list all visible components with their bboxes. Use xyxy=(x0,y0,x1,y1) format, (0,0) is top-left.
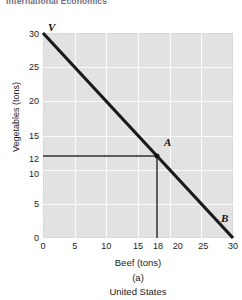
x-tick-0: 0 xyxy=(40,241,45,251)
x-tick-25: 25 xyxy=(198,241,208,251)
x-axis-label: Beef (tons) xyxy=(43,257,233,268)
x-tick-10: 10 xyxy=(101,241,111,251)
plot-area: V A B xyxy=(43,33,233,238)
point-label-v: V xyxy=(48,21,55,33)
y-tick-5: 5 xyxy=(18,199,39,209)
chart-page: International Economics V A B 0 5 10 12 xyxy=(0,0,242,300)
x-tick-15: 15 xyxy=(133,241,143,251)
x-tick-5: 5 xyxy=(72,241,77,251)
point-label-a: A xyxy=(164,136,171,148)
y-tick-15: 15 xyxy=(18,131,39,141)
y-tick-25: 25 xyxy=(18,62,39,72)
y-axis-label: Vegetables (tons) xyxy=(11,57,21,177)
panel-caption: United States xyxy=(43,286,233,297)
panel-letter: (a) xyxy=(43,272,233,283)
y-tick-12: 12 xyxy=(18,154,39,164)
x-tick-20: 20 xyxy=(173,241,183,251)
x-tick-30: 30 xyxy=(228,241,238,251)
page-header: International Economics xyxy=(6,0,107,6)
x-tick-18: 18 xyxy=(153,241,163,251)
point-a-marker xyxy=(155,154,160,159)
x-axis-ticks: 0 5 10 15 18 20 25 30 xyxy=(43,241,233,254)
point-label-b: B xyxy=(221,212,228,224)
y-tick-10: 10 xyxy=(18,169,39,179)
y-tick-20: 20 xyxy=(18,96,39,106)
y-tick-30: 30 xyxy=(18,29,39,39)
y-tick-0: 0 xyxy=(18,233,39,243)
ppf-line xyxy=(43,33,233,238)
y-axis-ticks: 0 5 10 12 15 20 25 30 xyxy=(18,33,39,238)
